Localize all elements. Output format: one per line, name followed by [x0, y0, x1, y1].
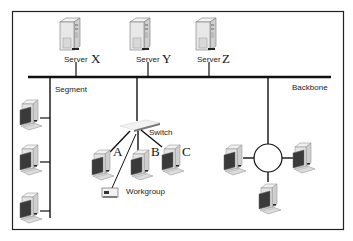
- workstation-c: [162, 145, 184, 175]
- backbone-label: Backbone: [292, 83, 328, 92]
- ring-workstation-bottom: [259, 184, 281, 214]
- switch-label: Switch: [149, 128, 173, 137]
- server-icon: [196, 18, 216, 50]
- segment-label: Segment: [55, 85, 88, 94]
- segment-workstation-1: [20, 100, 42, 130]
- workstation-a: [92, 150, 114, 180]
- server-x: Server X: [60, 18, 101, 66]
- workstation-b: [131, 150, 153, 180]
- segment-workstation-3: [20, 193, 42, 223]
- server-y: Server Y: [130, 18, 172, 66]
- ring-hub: [254, 144, 282, 172]
- workstation-c-letter: C: [182, 144, 191, 159]
- ring-workstation-left: [224, 145, 246, 175]
- server-x-label: Server: [64, 55, 88, 64]
- network-diagram: Server X Server Y Server Z Segment Switc…: [0, 0, 353, 241]
- workgroup-device-icon: [102, 188, 118, 197]
- server-y-label: Server: [136, 55, 160, 64]
- server-z-label: Server: [197, 55, 221, 64]
- server-z-letter: Z: [222, 51, 230, 66]
- server-icon: [60, 18, 80, 50]
- workstation-b-letter: B: [151, 144, 160, 159]
- server-x-letter: X: [91, 51, 101, 66]
- workgroup-label: Workgroup: [126, 187, 166, 196]
- ring-workstation-right: [293, 143, 315, 173]
- segment-workstation-2: [20, 145, 42, 175]
- server-y-letter: Y: [162, 51, 172, 66]
- server-icon: [130, 18, 150, 50]
- workstation-a-letter: A: [113, 144, 123, 159]
- server-z: Server Z: [196, 18, 230, 66]
